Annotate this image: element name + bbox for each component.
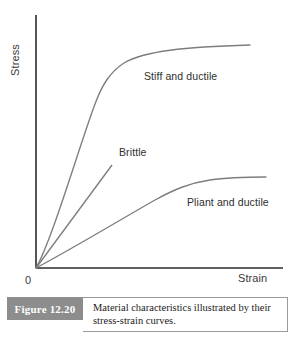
origin-label: 0 (25, 274, 31, 286)
figure-caption-box: Material characteristics illustrated by … (83, 297, 288, 332)
x-axis-title: Strain (238, 272, 267, 284)
plot-svg (0, 0, 296, 292)
figure-caption-block: Figure 12.20 Material characteristics il… (7, 297, 290, 334)
curve-pliant-and-ductile (36, 177, 266, 268)
curve-label-pliant-and-ductile: Pliant and ductile (187, 196, 269, 208)
curve-brittle (36, 165, 112, 268)
curve-label-stiff-and-ductile: Stiff and ductile (144, 70, 217, 82)
stress-strain-plot: Stress Strain 0 Stiff and ductile Brittl… (0, 0, 296, 292)
curve-label-brittle: Brittle (119, 146, 147, 158)
figure-caption-text: Material characteristics illustrated by … (93, 301, 281, 327)
y-axis-title: Stress (9, 36, 21, 84)
figure-container: Stress Strain 0 Stiff and ductile Brittl… (0, 0, 296, 340)
figure-number-tag: Figure 12.20 (7, 297, 83, 320)
